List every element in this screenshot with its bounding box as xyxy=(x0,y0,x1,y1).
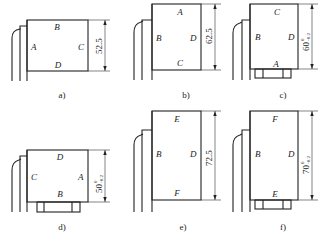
face-label-top: B xyxy=(54,22,60,32)
figure-f: F B D E 70 0 -0.2 f) xyxy=(233,111,318,232)
figure-b: A B D C 62.5 b) xyxy=(134,4,221,100)
figure-d: D C A B 50 0 -0.2 d) xyxy=(12,150,110,232)
tolerance-lower: -0.2 xyxy=(306,33,311,41)
face-label-top: F xyxy=(271,114,278,124)
machining-setup-diagram: B A C D 52.5 a) A B D C 62.5 b) xyxy=(0,0,323,241)
fixture-plate xyxy=(242,130,250,212)
face-label-right: A xyxy=(77,172,84,182)
face-label-left: B xyxy=(156,149,162,159)
figure-e: E B D F 72.5 e) xyxy=(134,111,221,232)
face-label-bottom: A xyxy=(272,59,279,69)
figure-caption: d) xyxy=(58,222,66,232)
fixture-plate xyxy=(20,26,27,81)
dimension-value: 52.5 xyxy=(94,38,104,54)
tolerance-lower: -0.2 xyxy=(99,175,104,183)
face-label-right: C xyxy=(78,42,85,52)
face-label-bottom: F xyxy=(173,188,180,198)
face-label-left: B xyxy=(255,32,261,42)
face-label-left: B xyxy=(255,149,261,159)
dimension-value: 72.5 xyxy=(204,150,214,166)
dimension-with-tolerance: 50 0 -0.2 xyxy=(93,175,104,193)
dimension-value: 60 xyxy=(301,42,311,52)
face-label-bottom: B xyxy=(57,189,63,199)
dimension-with-tolerance: 70 0 -0.2 xyxy=(300,156,311,174)
face-label-bottom: E xyxy=(271,189,278,199)
face-label-right: D xyxy=(189,33,197,43)
tolerance-upper: 0 xyxy=(93,180,98,183)
tolerance-upper: 0 xyxy=(300,38,305,41)
figure-caption: c) xyxy=(280,90,287,100)
tolerance-upper: 0 xyxy=(300,161,305,164)
base-block xyxy=(255,200,291,209)
face-label-top: D xyxy=(56,152,64,162)
fixture-plate xyxy=(20,156,27,212)
figure-caption: b) xyxy=(182,90,190,100)
fixture-plate xyxy=(242,20,250,80)
face-label-right: D xyxy=(287,149,295,159)
figure-caption: f) xyxy=(280,222,286,232)
face-label-left: C xyxy=(31,172,38,182)
face-label-bottom: C xyxy=(177,58,184,68)
face-label-left: A xyxy=(30,42,37,52)
dimension-value: 50 xyxy=(94,184,104,194)
dimension-with-tolerance: 60 0 -0.2 xyxy=(300,33,311,51)
face-label-top: C xyxy=(274,7,281,17)
face-label-right: D xyxy=(189,149,197,159)
fixture-plate xyxy=(142,130,152,212)
face-label-top: E xyxy=(173,114,180,124)
face-label-left: B xyxy=(156,33,162,43)
tolerance-lower: -0.2 xyxy=(306,156,311,164)
dimension-value: 62.5 xyxy=(204,28,214,44)
fixture-curve xyxy=(233,22,242,80)
face-label-bottom: D xyxy=(54,60,62,70)
face-label-right: D xyxy=(287,32,295,42)
figure-a: B A C D 52.5 a) xyxy=(12,20,110,100)
fixture-curve xyxy=(233,134,242,212)
base-block xyxy=(255,69,291,78)
dimension-value: 70 xyxy=(301,165,311,175)
figure-caption: a) xyxy=(59,90,66,100)
face-label-top: A xyxy=(176,7,183,17)
figure-caption: e) xyxy=(180,222,187,232)
fixture-plate xyxy=(142,20,152,80)
figure-c: C B D A 60 0 -0.2 c) xyxy=(233,4,318,100)
